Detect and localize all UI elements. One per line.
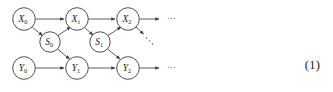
node-y0-subscript: 0: [24, 67, 27, 74]
y-row-ellipsis: ⋯: [167, 63, 176, 73]
edge-s1-y2: [108, 49, 121, 59]
node-x2-subscript: 2: [128, 18, 131, 25]
node-x0: X0: [13, 8, 36, 31]
node-y2: Y2: [117, 57, 140, 80]
edge-x2-diagonal-continuation: [136, 27, 153, 45]
node-y0: Y0: [13, 57, 36, 80]
edge-s1-x2: [108, 27, 121, 36]
node-s0: S0: [40, 32, 60, 52]
edge-x0-s0: [33, 28, 43, 36]
equation-number: (1): [305, 58, 320, 73]
node-s1-subscript: 1: [100, 41, 103, 48]
node-x0-subscript: 0: [24, 18, 27, 25]
edge-s0-y1: [58, 49, 70, 59]
node-y1: Y1: [66, 57, 89, 80]
graphical-model-diagram: X0 X1 X2 S0 S1: [0, 0, 333, 92]
edge-s0-x1: [58, 27, 71, 36]
figure-canvas: X0 X1 X2 S0 S1: [0, 0, 333, 92]
node-y1-subscript: 1: [77, 67, 80, 74]
node-y2-subscript: 2: [128, 67, 131, 74]
node-x2: X2: [117, 8, 140, 31]
node-x1-subscript: 1: [77, 18, 80, 25]
edge-x1-s1: [85, 28, 94, 36]
node-s0-subscript: 0: [50, 41, 53, 48]
x-row-ellipsis: ⋯: [167, 14, 176, 24]
node-s1: S1: [90, 32, 110, 52]
node-x1: X1: [66, 8, 89, 31]
